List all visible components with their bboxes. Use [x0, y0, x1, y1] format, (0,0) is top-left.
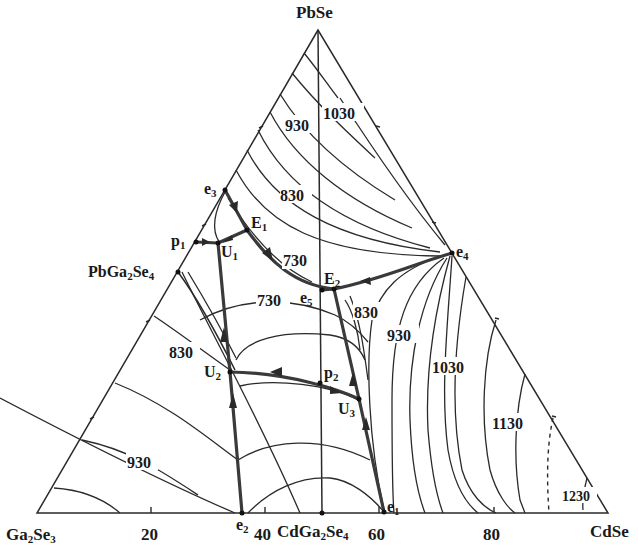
- invariant-points: [176, 188, 455, 516]
- point-label-e1: e1: [387, 498, 400, 517]
- point-label-e3: e3: [204, 180, 217, 199]
- isotherm-label: 730: [257, 292, 281, 309]
- vertex-label-pbse: PbSe: [296, 3, 333, 22]
- isotherm-label: 1030: [432, 359, 464, 376]
- point-label-p1: p1: [171, 232, 185, 251]
- tick-label-80: 80: [483, 525, 500, 544]
- isotherm-labels: 930 1030 830 730 730 830 930 1030 1130 1…: [126, 103, 597, 504]
- vertex-label-ga2se3: Ga2Se3: [6, 525, 56, 545]
- isotherms-cdse-field: [345, 256, 587, 513]
- point-label-e4: e4: [456, 243, 469, 262]
- dashed-isotherm: [548, 418, 553, 513]
- point-label-e5: e5: [300, 289, 313, 308]
- point-label-U3: U3: [338, 400, 356, 419]
- point-label-e2: e2: [236, 516, 249, 535]
- tick-label-20: 20: [141, 525, 158, 544]
- point-label-U2: U2: [204, 363, 222, 382]
- isotherm-label: 830: [169, 344, 193, 361]
- tick-label-60: 60: [368, 525, 385, 544]
- direction-arrows: [202, 201, 371, 430]
- isotherm-label: 930: [127, 454, 151, 471]
- isotherm-label: 930: [387, 327, 411, 344]
- arrow-e2-U2: [229, 393, 237, 408]
- isotherm-label: 1230: [562, 489, 590, 504]
- isotherm-label: 830: [354, 304, 378, 321]
- compound-label-pbga2se4: PbGa2Se4: [88, 263, 155, 282]
- point-label-p2: p2: [324, 364, 339, 383]
- point-label-E2: E2: [324, 270, 341, 289]
- vertex-labels: PbSe CdSe Ga2Se3 CdGa2Se4 PbGa2Se4: [6, 3, 629, 545]
- ternary-phase-diagram: PbSe CdSe Ga2Se3 CdGa2Se4 PbGa2Se4 20 40…: [0, 0, 638, 554]
- isotherms-pbse-field: [236, 53, 445, 256]
- tick-label-40: 40: [254, 525, 271, 544]
- compound-label-cdga2se4: CdGa2Se4: [277, 522, 349, 542]
- isotherm-label: 730: [283, 252, 307, 269]
- isotherm-label: 930: [285, 117, 309, 134]
- vertex-label-cdse: CdSe: [590, 522, 629, 541]
- isotherm-label: 1030: [323, 105, 355, 122]
- isotherm-label: 1130: [492, 415, 523, 432]
- isotherm-label: 830: [280, 187, 304, 204]
- point-label-U1: U1: [221, 243, 238, 262]
- arrow-p1-U1: [202, 238, 210, 246]
- point-label-E1: E1: [251, 214, 267, 233]
